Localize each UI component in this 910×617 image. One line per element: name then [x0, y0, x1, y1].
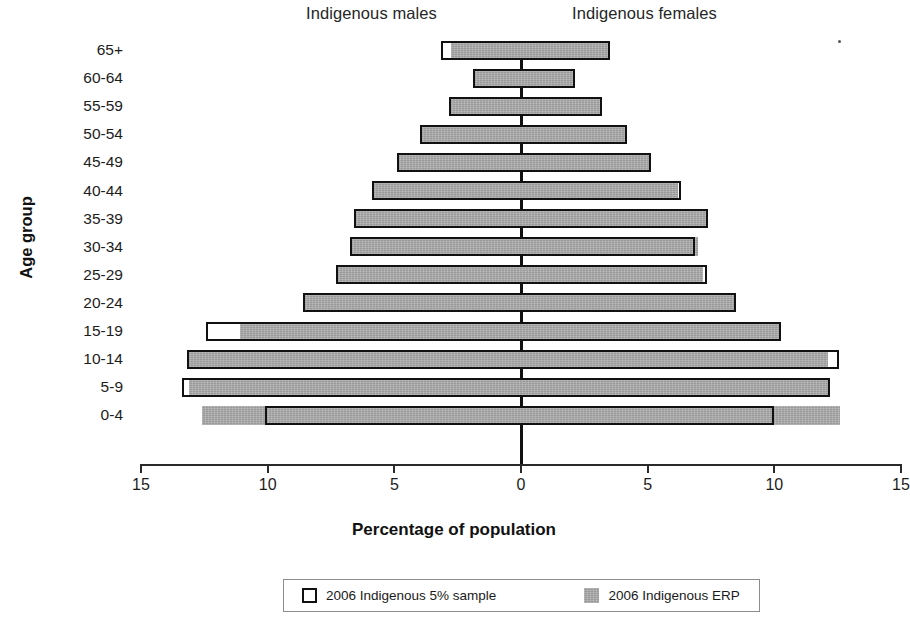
age-group-label: 60-64: [83, 70, 123, 86]
age-group-label: 45-49: [83, 155, 123, 171]
bar-sample: [354, 209, 709, 228]
x-axis-tick-label: 15: [892, 476, 910, 494]
x-axis-tick-label: 15: [132, 476, 150, 494]
x-axis-title: Percentage of population: [0, 520, 908, 540]
bar-sample: [206, 322, 781, 341]
x-axis-tick: [267, 464, 269, 473]
x-axis-tick-label: 0: [517, 476, 526, 494]
bar-sample: [303, 293, 736, 312]
x-axis-tick-label: 5: [390, 476, 399, 494]
x-axis-tick: [647, 464, 649, 473]
x-axis-tick: [520, 464, 522, 473]
bar-sample: [182, 378, 831, 397]
chart-title-females: Indigenous females: [572, 4, 717, 23]
x-axis-tick-label: 10: [259, 476, 277, 494]
legend-swatch-erp-icon: [584, 588, 599, 603]
chart-title-males: Indigenous males: [306, 4, 437, 23]
bar-sample: [350, 237, 695, 256]
bar-sample: [372, 181, 681, 200]
legend-label-erp: 2006 Indigenous ERP: [608, 588, 739, 603]
age-group-label: 30-34: [83, 239, 123, 255]
scan-artifact-speck: [838, 40, 841, 43]
legend-swatch-sample-icon: [302, 588, 317, 603]
age-group-label: 5-9: [101, 379, 123, 395]
bar-sample: [265, 406, 774, 425]
age-group-label: 55-59: [83, 98, 123, 114]
age-group-label: 10-14: [83, 351, 123, 367]
x-axis-tick: [393, 464, 395, 473]
x-axis-tick: [140, 464, 142, 473]
y-axis-title: Age group: [17, 168, 36, 308]
age-group-label: 15-19: [83, 323, 123, 339]
bar-sample: [397, 153, 652, 172]
x-axis-tick: [773, 464, 775, 473]
bar-sample: [336, 265, 707, 284]
bar-sample: [187, 350, 839, 369]
x-axis-tick-label: 10: [765, 476, 783, 494]
bar-sample: [449, 97, 602, 116]
bar-sample: [473, 69, 576, 88]
age-group-label: 65+: [97, 42, 123, 58]
plot-area: 0-45-910-1415-1920-2425-2930-3435-3940-4…: [141, 44, 901, 464]
legend-item-erp[interactable]: 2006 Indigenous ERP: [584, 588, 739, 603]
bar-sample: [441, 41, 609, 60]
age-group-label: 0-4: [101, 408, 123, 424]
age-group-label: 20-24: [83, 295, 123, 311]
x-axis-tick: [900, 464, 902, 473]
x-axis-tick-label: 5: [643, 476, 652, 494]
age-group-label: 35-39: [83, 211, 123, 227]
age-group-label: 25-29: [83, 267, 123, 283]
legend-item-sample[interactable]: 2006 Indigenous 5% sample: [302, 588, 496, 603]
age-group-label: 40-44: [83, 183, 123, 199]
legend-label-sample: 2006 Indigenous 5% sample: [326, 588, 496, 603]
chart-legend: 2006 Indigenous 5% sample 2006 Indigenou…: [283, 579, 760, 612]
bar-sample: [420, 125, 628, 144]
age-group-label: 50-54: [83, 127, 123, 143]
